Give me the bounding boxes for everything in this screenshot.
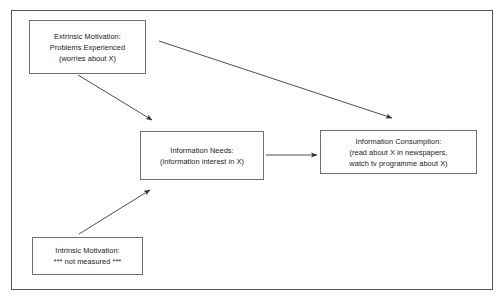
node-information-needs: Information Needs: (information interest… — [140, 131, 264, 180]
node-extrinsic-line-2: Problems Experienced — [50, 42, 125, 53]
node-intrinsic-motivation: Intrinsic Motivation: *** not measured *… — [32, 237, 143, 275]
node-intrinsic-line-2: *** not measured *** — [54, 256, 122, 267]
node-consumption-line-1: Information Consumption: — [356, 136, 442, 147]
node-intrinsic-line-1: Intrinsic Motivation: — [55, 245, 119, 256]
node-extrinsic-line-1: Extrinsic Motivation: — [54, 31, 121, 42]
node-extrinsic-line-3: (worries about X) — [59, 53, 116, 64]
node-needs-line-1: Information Needs: — [170, 145, 233, 156]
diagram-canvas: Extrinsic Motivation: Problems Experienc… — [0, 0, 504, 302]
node-needs-line-2: (information interest in X) — [160, 156, 244, 167]
node-consumption-line-2: (read about X in newspapers, — [350, 147, 448, 158]
node-consumption-line-3: watch tv programme about X) — [349, 158, 447, 169]
node-extrinsic-motivation: Extrinsic Motivation: Problems Experienc… — [29, 20, 146, 74]
node-information-consumption: Information Consumption: (read about X i… — [320, 130, 477, 174]
